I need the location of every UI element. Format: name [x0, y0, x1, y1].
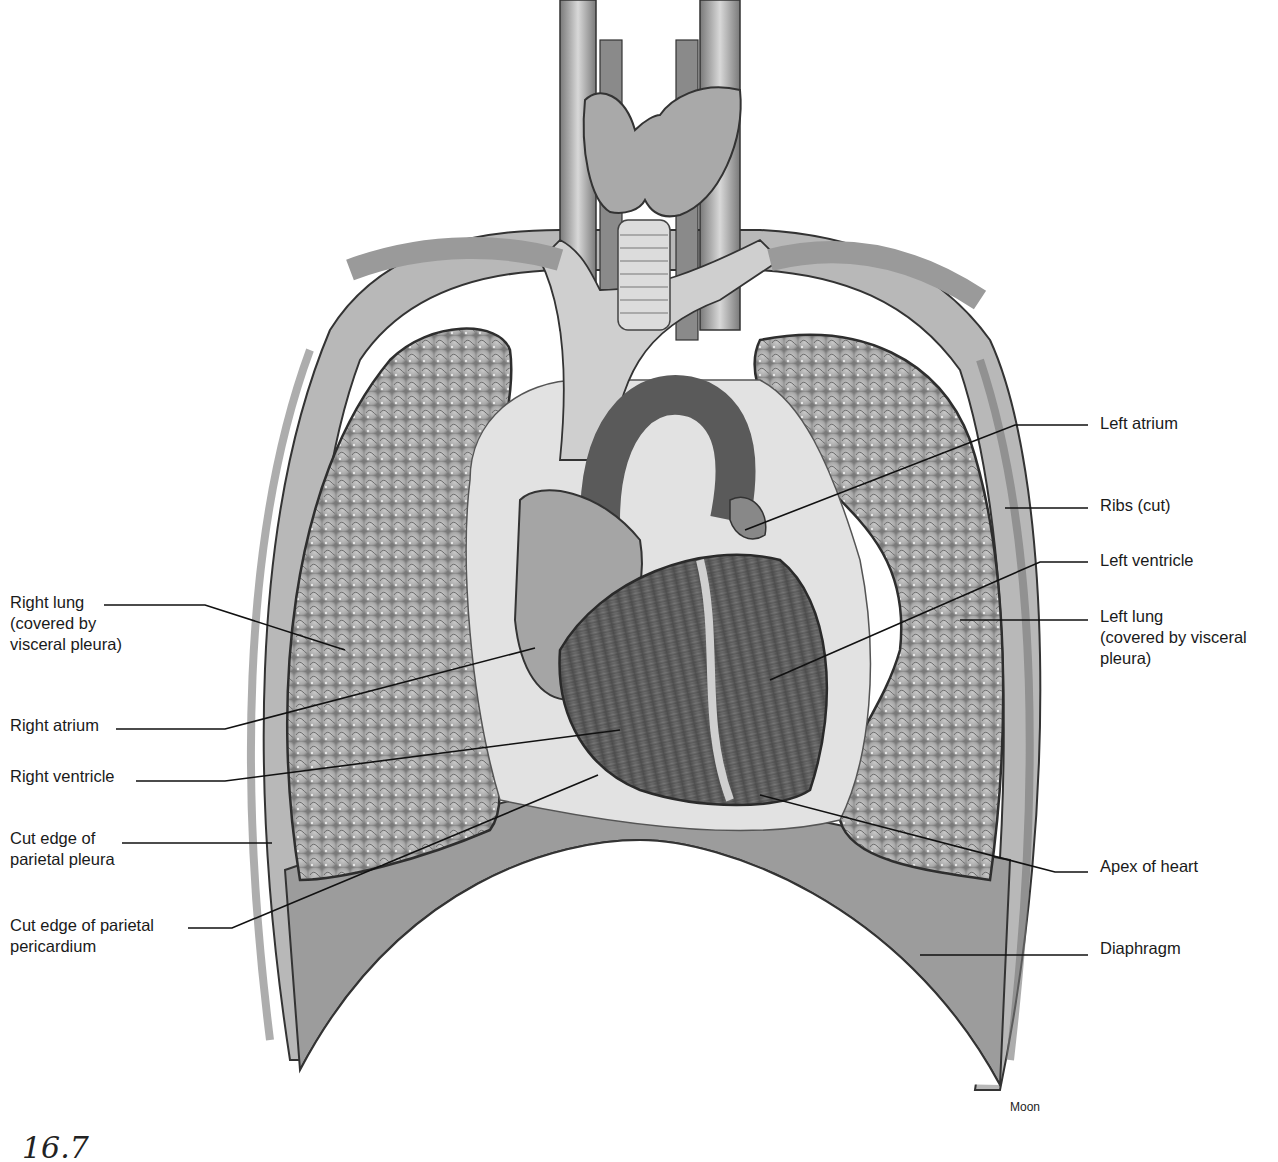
- label-right-atrium: Right atrium: [10, 715, 99, 736]
- label-cut-edge-parietal-pericardium: Cut edge of parietal pericardium: [10, 915, 154, 957]
- label-ribs-cut: Ribs (cut): [1100, 495, 1171, 516]
- label-left-lung: Left lung (covered by visceral pleura): [1100, 606, 1247, 669]
- label-cut-edge-parietal-pleura: Cut edge of parietal pleura: [10, 828, 115, 870]
- figure-number: 16.7: [22, 1130, 89, 1162]
- label-diaphragm: Diaphragm: [1100, 938, 1181, 959]
- label-left-ventricle: Left ventricle: [1100, 550, 1194, 571]
- label-right-ventricle: Right ventricle: [10, 766, 115, 787]
- label-apex-of-heart: Apex of heart: [1100, 856, 1198, 877]
- trachea: [618, 220, 670, 330]
- artist-credit: Moon: [1010, 1100, 1040, 1114]
- label-right-lung: Right lung (covered by visceral pleura): [10, 592, 122, 655]
- label-left-atrium: Left atrium: [1100, 413, 1178, 434]
